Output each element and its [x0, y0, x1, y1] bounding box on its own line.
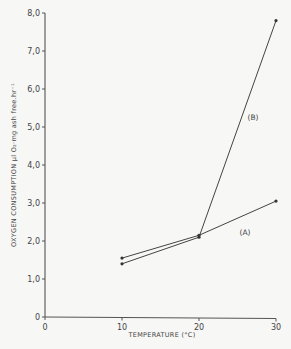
series-line-1: [122, 21, 276, 264]
data-point: [197, 236, 200, 239]
y-tick-label: 8,0: [27, 9, 40, 18]
y-axis-title: OXYGEN CONSUMPTION µl O₂·mg ash free.hr⁻…: [10, 83, 18, 247]
y-tick-label: 5,0: [27, 123, 40, 132]
x-tick-label: 0: [42, 323, 47, 332]
y-tick-label: 0: [35, 313, 40, 322]
y-tick-label: 1,0: [27, 275, 40, 284]
series-label: (B): [248, 113, 259, 122]
data-point: [120, 262, 123, 265]
chart: 01,02,03,04,05,06,07,08,0 0102030 (A)(B)…: [0, 0, 291, 349]
x-axis: [45, 317, 276, 319]
data-series: (A)(B): [120, 19, 277, 265]
y-tick-labels: 01,02,03,04,05,06,07,08,0: [27, 9, 40, 322]
axes: [42, 13, 276, 322]
y-tick-label: 6,0: [27, 85, 40, 94]
x-tick-label: 30: [271, 323, 281, 332]
x-tick-label: 10: [117, 323, 127, 332]
y-tick-label: 2,0: [27, 237, 40, 246]
series-label: (A): [240, 228, 251, 237]
data-point: [274, 200, 277, 203]
y-tick-label: 7,0: [27, 47, 40, 56]
y-tick-label: 4,0: [27, 161, 40, 170]
y-tick-label: 3,0: [27, 199, 40, 208]
x-axis-title: TEMPERATURE (°C): [128, 331, 196, 339]
data-point: [274, 19, 277, 22]
series-line-0: [122, 201, 276, 258]
data-point: [120, 257, 123, 260]
